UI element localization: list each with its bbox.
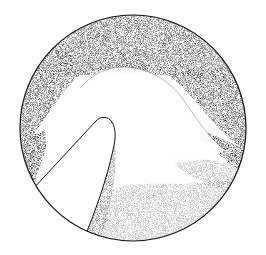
scope-view [20, 15, 246, 241]
stippled-illustration: Stippled circular endoscopic-style illus… [0, 0, 266, 255]
